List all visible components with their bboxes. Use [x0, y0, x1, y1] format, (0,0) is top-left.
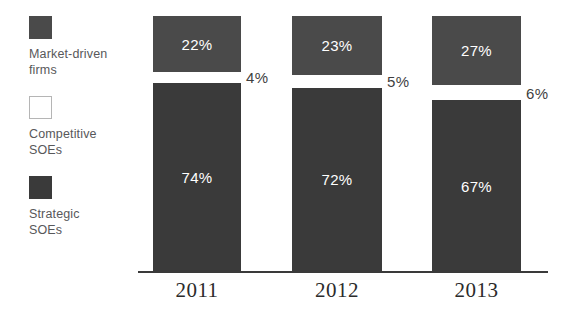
bar-2013-label-strategic-soes: 67% [461, 178, 492, 195]
chart-page: Market-driven firms Competitive SOEs Str… [0, 0, 574, 318]
bar-2012-label-market-driven-firms: 23% [322, 37, 353, 54]
bar-2013-label-competitive-soes: 6% [526, 84, 548, 101]
x-axis-tick-2012: 2012 [292, 278, 382, 303]
bar-2013-label-market-driven-firms: 27% [461, 42, 492, 59]
bar-2013: 27% 6% 67% [432, 16, 521, 272]
bar-2011-label-strategic-soes: 74% [182, 169, 213, 186]
bar-2012-label-competitive-soes: 5% [387, 73, 409, 90]
bar-2011-segment-strategic-soes: 74% [153, 83, 241, 272]
plot-area: 22% 4% 74% 23% 5% 72% 27% [0, 0, 574, 318]
bar-2011-label-market-driven-firms: 22% [182, 36, 213, 53]
bar-2013-segment-competitive-soes: 6% [432, 85, 521, 100]
bar-2012-segment-market-driven-firms: 23% [292, 16, 382, 75]
bar-2011: 22% 4% 74% [153, 16, 241, 272]
bar-2012-segment-strategic-soes: 72% [292, 88, 382, 272]
bar-2013-segment-strategic-soes: 67% [432, 100, 521, 272]
bar-2011-segment-competitive-soes: 4% [153, 72, 241, 82]
bar-2011-segment-market-driven-firms: 22% [153, 16, 241, 72]
x-axis-line [138, 271, 548, 273]
bar-2011-label-competitive-soes: 4% [246, 69, 268, 86]
bar-2012: 23% 5% 72% [292, 16, 382, 272]
bar-2012-segment-competitive-soes: 5% [292, 75, 382, 88]
bar-2013-segment-market-driven-firms: 27% [432, 16, 521, 85]
x-axis-tick-2013: 2013 [432, 278, 521, 303]
x-axis-tick-2011: 2011 [153, 278, 241, 303]
bar-2012-label-strategic-soes: 72% [322, 171, 353, 188]
